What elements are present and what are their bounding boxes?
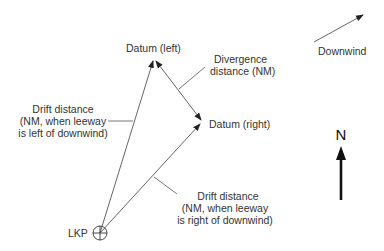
drift-right-label-line1: Drift distance [197,190,258,202]
north-arrow-icon [336,146,346,200]
drift-left-label-line3: is left of downwind) [18,127,107,139]
datum-left-label: Datum (left) [126,42,181,54]
drift-left-label-line2: (NM, when leeway [20,115,107,127]
downwind-arrow-icon [314,15,363,42]
lkp-symbol-icon [93,226,107,240]
divergence-leader [179,67,205,89]
drift-right-leader [154,177,177,194]
lkp-label: LKP [68,227,88,239]
datum-right-label: Datum (right) [209,118,270,130]
drift-divergence-diagram: Datum (left) Datum (right) Divergence di… [0,0,384,251]
north-label: N [336,126,347,143]
drift-right-label-line3: is right of downwind) [177,214,273,226]
downwind-label: Downwind [318,45,367,57]
divergence-label-line2: distance (NM) [210,65,275,77]
divergence-label-line1: Divergence [214,53,267,65]
drift-right-label-line2: (NM, when leeway [182,202,269,214]
divergence-line [156,61,201,120]
drift-line-left [100,61,153,233]
drift-left-label-line1: Drift distance [32,103,93,115]
